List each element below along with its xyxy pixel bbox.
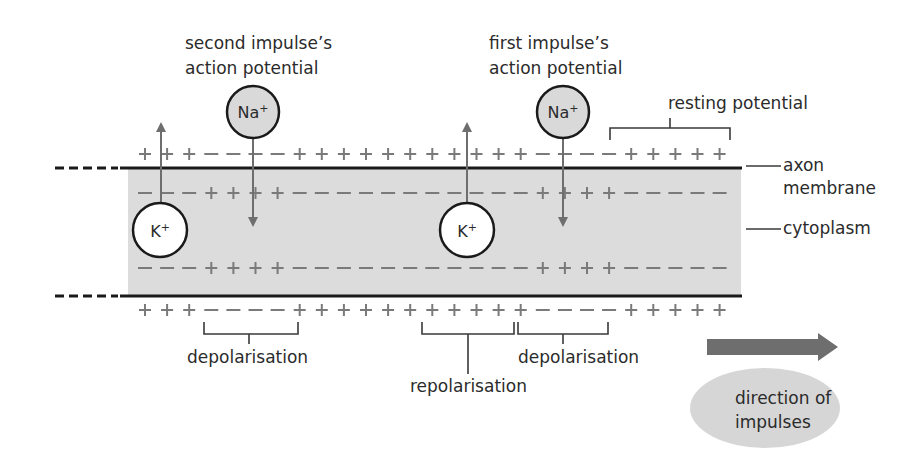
- positive-charge: [647, 148, 659, 160]
- repolarisation-bracket: [422, 322, 514, 374]
- positive-charge: [139, 148, 151, 160]
- k-ion-second: K+: [133, 203, 187, 257]
- cytoplasm-region: [128, 168, 741, 296]
- positive-charge: [294, 304, 306, 316]
- axon-membrane-label-line1: axon: [783, 155, 824, 176]
- positive-charge: [183, 304, 195, 316]
- positive-charge: [692, 148, 704, 160]
- positive-charge: [714, 304, 726, 316]
- positive-charge: [692, 304, 704, 316]
- positive-charge: [161, 148, 173, 160]
- positive-charge: [404, 304, 416, 316]
- k-ion-first: K+: [440, 203, 494, 257]
- positive-charge: [360, 148, 372, 160]
- second-impulse-label-line1: second impulse’s: [185, 33, 332, 54]
- first-impulse-label-line2: action potential: [489, 58, 622, 79]
- first-impulse-label-line1: first impulse’s: [489, 33, 609, 54]
- positive-charge: [471, 304, 483, 316]
- positive-charge: [382, 148, 394, 160]
- positive-charge: [625, 148, 637, 160]
- charge-row-outer-bottom: [139, 304, 726, 316]
- positive-charge: [493, 148, 505, 160]
- resting-potential-label: resting potential: [668, 93, 808, 114]
- positive-charge: [382, 304, 394, 316]
- direction-arrow: [707, 333, 838, 361]
- positive-charge: [625, 304, 637, 316]
- axon-membrane-label-line2: membrane: [783, 178, 876, 199]
- positive-charge: [714, 148, 726, 160]
- positive-charge: [139, 304, 151, 316]
- direction-label-line2: impulses: [735, 412, 811, 432]
- positive-charge: [316, 304, 328, 316]
- positive-charge: [669, 148, 681, 160]
- positive-charge: [294, 148, 306, 160]
- na-ion-second: Na+: [227, 86, 279, 138]
- positive-charge: [161, 304, 173, 316]
- positive-charge: [647, 304, 659, 316]
- resting-potential-bracket: [610, 118, 730, 140]
- depolarisation-left-label: depolarisation: [187, 347, 308, 368]
- direction-ellipse: [690, 368, 840, 448]
- positive-charge: [669, 304, 681, 316]
- positive-charge: [338, 148, 350, 160]
- na-ion-first: Na+: [537, 86, 589, 138]
- second-impulse-label-line2: action potential: [185, 58, 318, 79]
- positive-charge: [338, 304, 350, 316]
- positive-charge: [360, 304, 372, 316]
- depolarisation-right-label: depolarisation: [518, 347, 639, 368]
- positive-charge: [448, 148, 460, 160]
- charge-row-outer-top: [139, 148, 726, 160]
- positive-charge: [426, 304, 438, 316]
- positive-charge: [515, 304, 527, 316]
- depolarisation-right-bracket: [518, 322, 608, 344]
- direction-label-line1: direction of: [735, 388, 832, 408]
- positive-charge: [183, 148, 195, 160]
- positive-charge: [316, 148, 328, 160]
- positive-charge: [404, 148, 416, 160]
- positive-charge: [426, 148, 438, 160]
- cytoplasm-label: cytoplasm: [783, 218, 871, 239]
- positive-charge: [493, 304, 505, 316]
- positive-charge: [471, 148, 483, 160]
- depolarisation-left-bracket: [204, 322, 298, 344]
- positive-charge: [448, 304, 460, 316]
- repolarisation-label: repolarisation: [410, 376, 527, 397]
- positive-charge: [515, 148, 527, 160]
